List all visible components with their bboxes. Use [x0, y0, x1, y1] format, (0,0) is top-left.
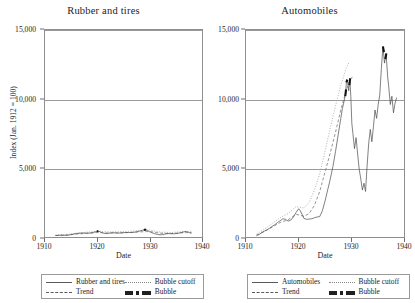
panel-rubber-and-tires: Rubber and tires Index (Jan. 1912 = 100)… — [0, 0, 207, 268]
legend-item[interactable]: Bubble — [329, 287, 406, 297]
legend-line-dashed-icon — [46, 288, 72, 296]
legend-label: Automobiles — [282, 277, 320, 287]
legend-label: Bubble — [155, 287, 176, 297]
legend-label: Bubble cutoff — [359, 277, 400, 287]
legend-label: Bubble cutoff — [155, 277, 196, 287]
legend-item[interactable]: Bubble cutoff — [329, 277, 406, 287]
legend-line-dashdot-icon — [329, 288, 355, 296]
x-axis-ticks: 1910 1920 1930 1940 — [206, 0, 413, 268]
panel-automobiles: Automobiles 15,000 10,000 5,000 0 1910 1… — [206, 0, 413, 268]
legend-item[interactable]: Rubber and tires — [46, 277, 125, 287]
legend-item[interactable]: Automobiles — [252, 277, 329, 287]
legend-rubber: Rubber and tires Bubble cutoff Trend Bub… — [41, 274, 204, 299]
x-tick-label: 1930 — [343, 242, 358, 251]
x-tick-label: 1910 — [237, 242, 252, 251]
legend-line-dashed-icon — [252, 288, 278, 296]
x-axis-title: Date — [44, 251, 203, 260]
legend-line-dotted-icon — [329, 278, 355, 286]
legend-item[interactable]: Bubble cutoff — [125, 277, 199, 287]
legend-line-solid-icon — [252, 278, 278, 286]
x-axis-ticks: 1910 1920 1930 1940 — [0, 0, 207, 268]
legend-label: Rubber and tires — [76, 277, 125, 287]
legend-label: Bubble — [359, 287, 380, 297]
figure-container: Rubber and tires Index (Jan. 1912 = 100)… — [0, 0, 415, 303]
legend-line-dotted-icon — [125, 278, 151, 286]
legend-automobiles: Automobiles Bubble cutoff Trend Bubble — [247, 274, 410, 299]
x-tick-label: 1940 — [396, 242, 411, 251]
x-tick-label: 1910 — [36, 242, 51, 251]
legend-item[interactable]: Trend — [252, 287, 329, 297]
legend-item[interactable]: Bubble — [125, 287, 199, 297]
legend-label: Trend — [282, 287, 299, 297]
x-axis-title: Date — [245, 251, 405, 260]
x-tick-label: 1920 — [290, 242, 305, 251]
x-tick-label: 1930 — [142, 242, 157, 251]
legend-item[interactable]: Trend — [46, 287, 125, 297]
legend-line-dashdot-icon — [125, 288, 151, 296]
legend-line-solid-icon — [46, 278, 72, 286]
x-tick-label: 1920 — [89, 242, 104, 251]
legend-label: Trend — [76, 287, 93, 297]
